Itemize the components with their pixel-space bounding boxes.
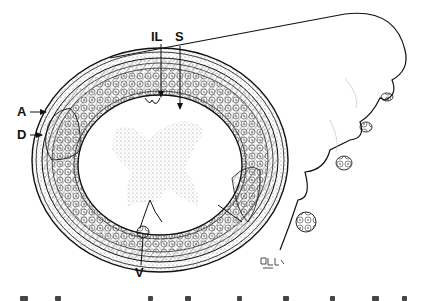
label-a: A (17, 105, 26, 118)
label-s: S (175, 30, 184, 43)
label-v: V (135, 266, 144, 279)
cross-section (32, 48, 288, 272)
label-d: D (17, 128, 26, 141)
artist-signature (261, 258, 284, 268)
caption-fragment (0, 293, 423, 301)
label-il: IL (151, 30, 163, 43)
cross-section-diagram (0, 0, 423, 301)
